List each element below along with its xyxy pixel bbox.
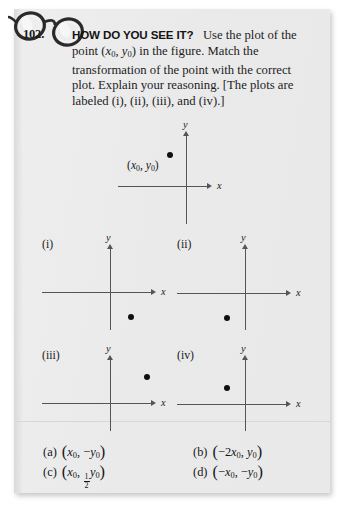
- question-line-1: Use the plot of: [203, 28, 278, 42]
- answer-choice-a-open-paren: (: [62, 442, 67, 461]
- problem-number: 102.: [23, 27, 44, 42]
- plot-iii-y-axis-arrowhead: [107, 355, 113, 360]
- plot-iii-point: [144, 374, 150, 380]
- answer-choices: (a) (x0, −y0) (b) (−2x0, y0) (c) (x0, 12…: [43, 444, 313, 484]
- answer-choice-a-close-paren: ): [100, 442, 105, 461]
- plot-ii-point: [224, 315, 230, 321]
- question-line-3: transformation of the point with the cor…: [72, 63, 291, 77]
- answer-choice-d-minus-y: −: [241, 465, 248, 479]
- answer-choice-c-comma: ,: [77, 465, 83, 479]
- main-plot-x-axis-arrowhead: [207, 183, 212, 189]
- main-plot-point: [167, 152, 173, 158]
- textbook-page: 102. HOW DO YOU SEE IT? Use the plot of …: [0, 0, 342, 508]
- plot-ii-y-axis-label: y: [241, 232, 246, 243]
- plot-iv-y-axis-arrowhead: [242, 355, 248, 360]
- plot-iv-y-axis: [245, 360, 246, 431]
- answer-choice-row-2: (c) (x0, 12y0) (d) (−x0, −y0): [43, 464, 313, 484]
- answer-choice-c-fraction: 12: [84, 473, 90, 490]
- answer-choice-c-fraction-denominator: 2: [84, 482, 90, 490]
- answer-choice-c-expression: (x0, 12y0): [62, 464, 105, 490]
- answer-choice-b-minus: −: [218, 445, 225, 459]
- question-line-4: plot. Explain your reasoning. [The plots…: [72, 78, 293, 92]
- question-heading-gap: [193, 28, 203, 42]
- plot-iii: x y: [42, 351, 172, 431]
- question-line-5: labeled (i), (ii), (iii), and (iv).]: [72, 94, 225, 108]
- plot-ii-x-axis-arrowhead: [286, 290, 291, 296]
- question-block: HOW DO YOU SEE IT? Use the plot of the p…: [72, 27, 312, 109]
- answer-choice-row-1: (a) (x0, −y0) (b) (−2x0, y0): [43, 444, 313, 464]
- answer-choice-d-y-subscript: 0: [253, 470, 257, 480]
- main-plot-x-axis-label: x: [217, 180, 222, 191]
- main-plot: x y (x0, y0): [118, 128, 228, 224]
- answer-choice-b-expression: (−2x0, y0): [212, 444, 262, 460]
- plot-iv-x-axis: [177, 404, 287, 405]
- answer-choice-c-close-paren: ): [100, 462, 105, 481]
- answer-choice-c-open-paren: (: [62, 462, 67, 481]
- plot-i: x y: [42, 240, 172, 330]
- main-plot-x-axis: [118, 186, 208, 187]
- question-line-2b: ) in the figure. Match the: [132, 44, 259, 58]
- question-heading: HOW DO YOU SEE IT?: [72, 28, 193, 41]
- answer-choice-d-minus-x: −: [218, 465, 225, 479]
- plot-ii-x-axis: [177, 293, 287, 294]
- plot-i-y-axis-arrowhead: [107, 244, 113, 249]
- answer-choice-d-marker: (d): [193, 465, 207, 480]
- answer-choice-b-open-paren: (: [212, 442, 217, 461]
- answer-choice-d-open-paren: (: [212, 462, 217, 481]
- plot-i-y-axis: [110, 249, 111, 330]
- answer-choice-c-marker: (c): [43, 465, 57, 480]
- plot-iv-point: [224, 385, 230, 391]
- plot-i-point: [128, 314, 134, 320]
- answer-choice-b[interactable]: (b) (−2x0, y0): [193, 444, 262, 460]
- plot-ii-y-axis-arrowhead: [242, 244, 248, 249]
- plot-iv: x y: [177, 351, 307, 431]
- plot-iii-y-axis-label: y: [106, 343, 111, 354]
- answer-choice-a-marker: (a): [43, 445, 57, 460]
- answer-choice-b-marker: (b): [193, 445, 207, 460]
- main-plot-y-axis-arrowhead: [183, 131, 189, 136]
- main-plot-point-label: (x0, y0): [127, 159, 159, 173]
- plot-ii-x-axis-label: x: [296, 287, 301, 298]
- plot-iii-x-axis: [42, 403, 152, 404]
- plot-ii-y-axis: [245, 249, 246, 330]
- answer-choice-d-close-paren: ): [258, 462, 263, 481]
- answer-choice-b-close-paren: ): [257, 442, 262, 461]
- answer-choice-d[interactable]: (d) (−x0, −y0): [193, 464, 263, 480]
- main-plot-y-axis-label: y: [183, 119, 188, 130]
- answer-choice-a-expression: (x0, −y0): [62, 444, 106, 460]
- plot-i-y-axis-label: y: [106, 232, 111, 243]
- plot-i-x-axis: [42, 292, 152, 293]
- plot-iii-x-axis-label: x: [161, 397, 166, 408]
- main-plot-point-label-close: ): [155, 159, 159, 172]
- answer-choice-a[interactable]: (a) (x0, −y0): [43, 444, 193, 460]
- answer-choice-c-y-subscript: 0: [95, 470, 99, 480]
- plot-i-x-axis-label: x: [161, 286, 166, 297]
- plot-iv-y-axis-label: y: [241, 343, 246, 354]
- plot-iii-y-axis: [110, 360, 111, 431]
- answer-choice-c[interactable]: (c) (x0, 12y0): [43, 464, 193, 490]
- answer-choice-d-expression: (−x0, −y0): [212, 464, 263, 480]
- main-plot-y-axis: [186, 136, 187, 224]
- plot-iii-x-axis-arrowhead: [151, 400, 156, 406]
- plot-iv-x-axis-arrowhead: [286, 401, 291, 407]
- plot-iv-x-axis-label: x: [296, 398, 301, 409]
- plot-i-x-axis-arrowhead: [151, 289, 156, 295]
- plot-ii: x y: [177, 240, 307, 330]
